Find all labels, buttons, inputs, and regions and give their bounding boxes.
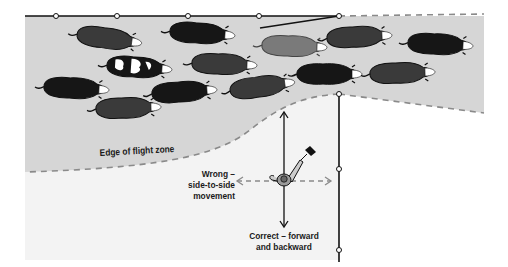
- wrong-movement-label: Wrong – side-to-side movement: [182, 168, 235, 201]
- flight-zone-edge-line-top: [339, 14, 484, 16]
- correct-label-line-1: Correct – forward: [240, 230, 328, 241]
- wrong-label-line-2: side-to-side: [182, 179, 235, 190]
- wrong-label-line-1: Wrong –: [182, 168, 235, 179]
- wrong-label-line-3: movement: [182, 190, 235, 201]
- correct-movement-label: Correct – forward and backward: [240, 230, 328, 252]
- correct-label-line-2: and backward: [240, 241, 328, 252]
- flight-zone-diagram: [0, 0, 508, 267]
